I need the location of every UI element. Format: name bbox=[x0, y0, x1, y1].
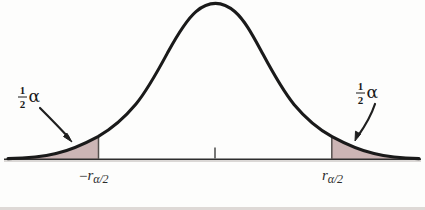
scan-bottom-edge bbox=[0, 207, 425, 210]
normal-distribution-figure: 1 2 α 1 2 α − r α/2 r α/2 bbox=[0, 0, 425, 210]
right-alpha-arrow-icon bbox=[358, 104, 375, 136]
figure-canvas bbox=[0, 0, 425, 210]
right-tail-shaded-region bbox=[332, 137, 419, 159]
left-alpha-arrow-icon bbox=[40, 108, 69, 138]
